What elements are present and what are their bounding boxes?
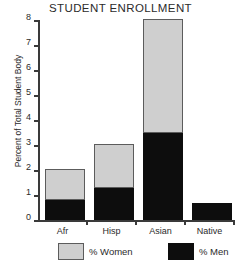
bar-segment-men	[143, 133, 183, 221]
plot-area: 012345678AfrHispAsianNative	[38, 20, 234, 220]
y-axis-tick-label: 8	[26, 13, 31, 22]
x-axis-category-label: Afr	[38, 226, 87, 236]
y-axis-tick-label: 4	[26, 113, 31, 122]
bar-native	[192, 203, 232, 221]
y-axis-tick: 5	[34, 95, 39, 97]
y-axis-tick-label: 2	[26, 163, 31, 172]
x-axis-category-label: Hisp	[87, 226, 136, 236]
legend-label-women: % Women	[89, 246, 133, 257]
x-axis-tick	[233, 220, 235, 225]
y-axis-tick: 0	[34, 220, 39, 222]
chart-legend: % Women % Men	[0, 243, 241, 269]
y-axis-tick-label: 5	[26, 88, 31, 97]
bar-asian	[143, 20, 183, 220]
y-axis-tick: 3	[34, 145, 39, 147]
legend-swatch-women-icon	[58, 243, 84, 260]
x-axis-tick	[184, 220, 186, 225]
legend-swatch-men-icon	[168, 243, 194, 260]
bar-segment-women	[45, 169, 85, 200]
y-axis-tick-label: 1	[26, 188, 31, 197]
y-axis-label: Percent of Total Student Body	[13, 31, 23, 191]
y-axis-tick: 8	[34, 20, 39, 22]
y-axis-tick: 2	[34, 170, 39, 172]
y-axis-tick: 4	[34, 120, 39, 122]
stacked-bar-chart: STUDENT ENROLLMENT Percent of Total Stud…	[0, 0, 241, 269]
y-axis-tick-label: 6	[26, 63, 31, 72]
y-axis-tick: 1	[34, 195, 39, 197]
x-axis-tick	[86, 220, 88, 225]
bar-afr	[45, 170, 85, 220]
y-axis-tick-label: 0	[26, 213, 31, 222]
bar-segment-men	[45, 200, 85, 220]
chart-title: STUDENT ENROLLMENT	[0, 2, 241, 14]
bar-segment-men	[192, 203, 232, 221]
y-axis-tick: 6	[34, 70, 39, 72]
x-axis-category-label: Native	[185, 226, 234, 236]
bar-segment-men	[94, 188, 134, 221]
y-axis-tick: 7	[34, 45, 39, 47]
y-axis-tick-label: 3	[26, 138, 31, 147]
legend-item-men: % Men	[168, 243, 229, 260]
x-axis-category-label: Asian	[136, 226, 185, 236]
bar-hisp	[94, 145, 134, 220]
legend-label-men: % Men	[199, 246, 229, 257]
y-axis-tick-label: 7	[26, 38, 31, 47]
bar-segment-women	[94, 144, 134, 188]
x-axis-tick	[135, 220, 137, 225]
legend-item-women: % Women	[58, 243, 133, 260]
bar-segment-women	[143, 19, 183, 133]
